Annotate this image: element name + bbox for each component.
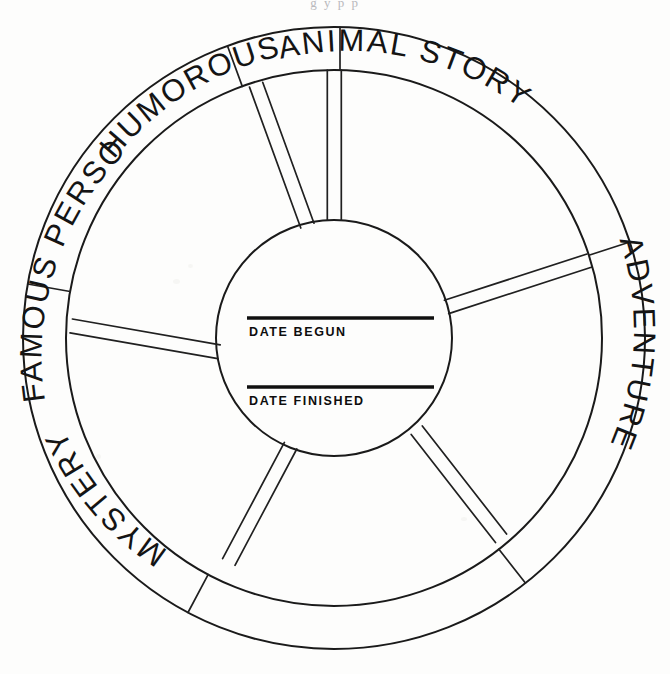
paper-speckle	[173, 279, 180, 284]
paper-speckle	[188, 264, 193, 268]
spoke-left	[70, 319, 220, 359]
spoke-lower-right	[411, 426, 506, 543]
date-begun-label: DATE BEGUN	[249, 325, 347, 339]
date-finished-label: DATE FINISHED	[249, 394, 365, 408]
segment-label-humorous: HUMOROUS	[93, 28, 285, 164]
spoke-upper-left	[250, 82, 315, 228]
segment-label-adventure: ADVENTURE	[603, 232, 662, 456]
hub-fields: DATE BEGUN DATE FINISHED	[247, 318, 434, 408]
segment-label-mystery-text: MYSTERY	[37, 424, 172, 574]
paper-speckle	[96, 454, 101, 459]
segment-label-animal-story-text: ANIMAL STORY	[275, 23, 538, 115]
segment-label-mystery: MYSTERY	[37, 424, 172, 574]
segment-label-adventure-text: ADVENTURE	[603, 232, 662, 456]
spoke-lower-left	[223, 442, 297, 565]
worksheet-page: g y p p	[0, 0, 670, 674]
ring-labels: ANIMAL STORY ADVENTURE MYSTERY FAMOUS PE…	[0, 0, 662, 574]
reading-wheel: ANIMAL STORY ADVENTURE MYSTERY FAMOUS PE…	[0, 0, 670, 674]
spoke-upper-right	[444, 254, 591, 314]
segment-label-humorous-text: HUMOROUS	[93, 28, 285, 164]
segment-label-animal-story: ANIMAL STORY	[275, 23, 538, 115]
spoke-up	[327, 70, 341, 220]
paper-speckle	[461, 517, 467, 521]
